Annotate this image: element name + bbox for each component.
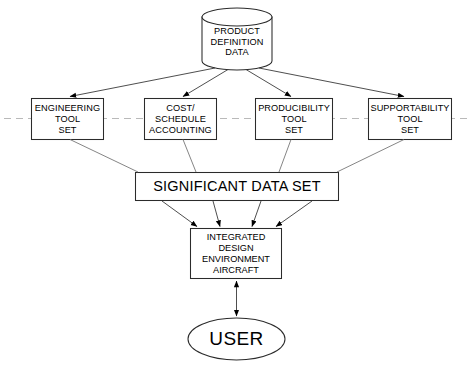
edge-significant-data-set-to-ide-1 (162, 201, 197, 227)
edge-significant-data-set-to-ide-4 (276, 201, 312, 227)
node-database (202, 8, 272, 70)
edge-significant-data-set-to-ide-2 (213, 201, 220, 227)
node-cost-schedule-accounting-shape (145, 99, 217, 140)
edge-database-to-cost-schedule (183, 70, 228, 97)
edge-cost-schedule-to-significant-data-set (183, 140, 196, 173)
edge-supportability-to-significant-data-set (337, 140, 404, 173)
diagram-canvas: PRODUCT DEFINITION DATA ENGINEERING TOOL… (0, 0, 471, 372)
edge-engineering-to-significant-data-set (70, 140, 138, 173)
edge-database-to-engineering (70, 68, 215, 97)
edge-database-to-producibility (246, 70, 291, 97)
edge-database-to-supportability (259, 68, 404, 97)
node-integrated-design-environment-shape (191, 229, 282, 279)
node-engineering-tool-set-shape (32, 99, 104, 140)
edge-significant-data-set-to-ide-3 (252, 201, 261, 227)
node-user-shape (188, 318, 285, 360)
diagram-svg (0, 0, 471, 372)
node-producibility-tool-set-shape (256, 99, 333, 140)
edge-producibility-to-significant-data-set (279, 140, 291, 173)
node-supportability-tool-set-shape (369, 99, 452, 140)
node-significant-data-set-shape (136, 173, 339, 201)
